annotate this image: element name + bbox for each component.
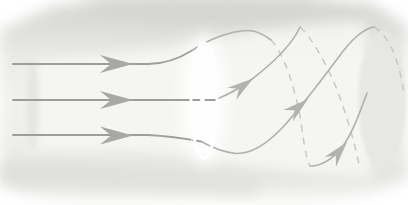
diagram-canvas xyxy=(0,0,408,205)
inlet-disk xyxy=(27,58,39,150)
wake-rotation-diagram xyxy=(0,0,408,205)
rotor-hub xyxy=(200,98,205,103)
wake-end-disk xyxy=(358,32,406,170)
